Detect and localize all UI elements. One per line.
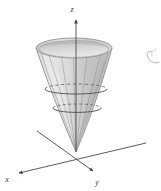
edge-pen-mark-icon <box>147 49 159 63</box>
z-axis-label: z <box>69 5 74 14</box>
cone-top-rim <box>36 38 112 58</box>
figure-canvas: z x y <box>0 0 161 191</box>
cone-surface-diagram: z x y <box>0 0 161 191</box>
x-axis-line <box>19 143 146 173</box>
x-axis-label: x <box>4 175 9 184</box>
y-axis-label: y <box>94 178 99 187</box>
y-axis-line <box>37 131 93 171</box>
